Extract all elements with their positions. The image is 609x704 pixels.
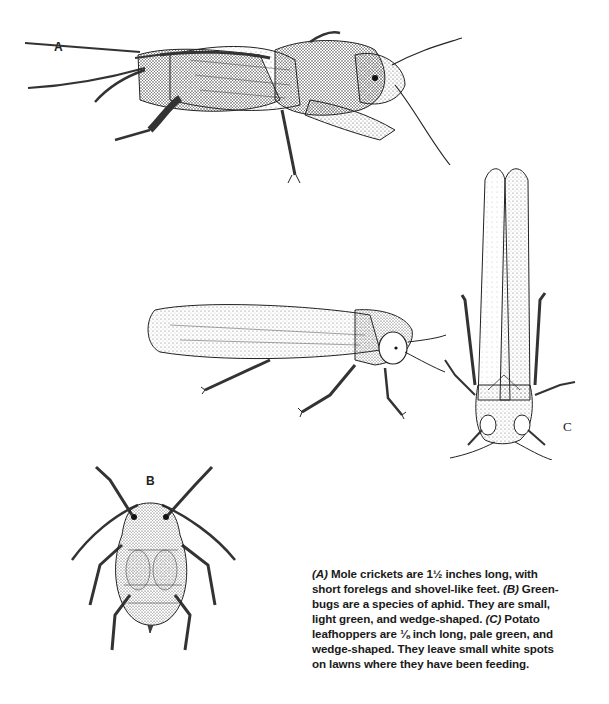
caption-tag-b: (B) — [503, 582, 519, 595]
figure-label-c: C — [563, 419, 572, 435]
caption-line-4: light green, and wedge-shaped. (C) Potat… — [312, 611, 609, 626]
aphid-illustration — [60, 455, 250, 670]
caption-text: Mole crickets are 1½ inches long, with — [328, 567, 538, 580]
caption-tag-c: (C) — [485, 612, 501, 625]
caption-text: Green- — [519, 582, 559, 595]
caption-line-2: short forelegs and shovel-like feet. (B)… — [312, 581, 609, 596]
leafhopper-top-illustration — [440, 160, 609, 460]
caption-text: light green, and wedge-shaped. — [312, 612, 485, 625]
figure-caption: (A) Mole crickets are 1½ inches long, wi… — [312, 566, 609, 671]
caption-line-7: on lawns where they have been feeding. — [312, 656, 609, 671]
caption-tag-a: (A) — [312, 567, 328, 580]
caption-text: Potato — [501, 612, 540, 625]
caption-text: short forelegs and shovel-like feet. — [312, 582, 503, 595]
caption-line-1: (A) Mole crickets are 1½ inches long, wi… — [312, 566, 609, 581]
mole-cricket-illustration — [20, 30, 470, 190]
leafhopper-side-illustration — [140, 290, 450, 430]
caption-line-3: bugs are a species of aphid. They are sm… — [312, 596, 609, 611]
caption-line-5: leafhoppers are ⅛ inch long, pale green,… — [312, 626, 609, 641]
caption-line-6: wedge-shaped. They leave small white spo… — [312, 641, 609, 656]
